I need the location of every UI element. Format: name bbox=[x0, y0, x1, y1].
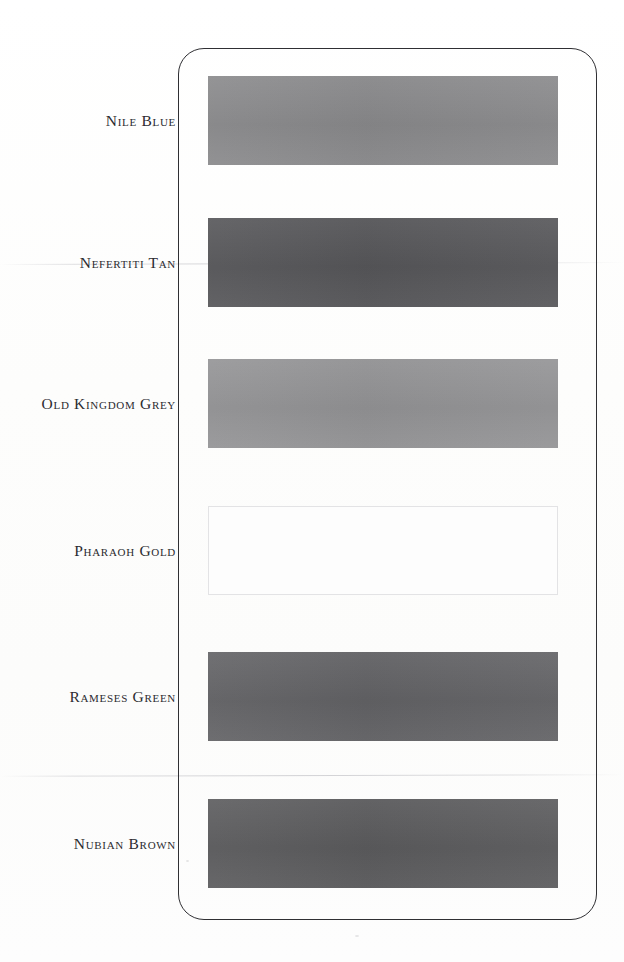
swatch-color-fill bbox=[208, 506, 558, 595]
swatch-patch-nefertiti-tan bbox=[208, 218, 558, 307]
swatch-row: Nefertiti Tan bbox=[0, 218, 624, 307]
swatch-label: Pharaoh Gold bbox=[0, 506, 176, 595]
swatch-row: Old Kingdom Grey bbox=[0, 359, 624, 448]
swatch-patch-nile-blue bbox=[208, 76, 558, 165]
swatch-color-fill bbox=[208, 359, 558, 448]
swatch-patch-nubian-brown bbox=[208, 799, 558, 888]
swatch-color-fill bbox=[208, 799, 558, 888]
swatch-row: Rameses Green bbox=[0, 652, 624, 741]
swatch-list: Nile Blue Nefertiti Tan Old Kingdom Grey… bbox=[0, 0, 624, 962]
swatch-color-fill bbox=[208, 218, 558, 307]
swatch-row: Nile Blue bbox=[0, 76, 624, 165]
swatch-patch-rameses-green bbox=[208, 652, 558, 741]
swatch-color-fill bbox=[208, 76, 558, 165]
swatch-label: Old Kingdom Grey bbox=[0, 359, 176, 448]
swatch-label: Nile Blue bbox=[0, 76, 176, 165]
page-canvas: Nile Blue Nefertiti Tan Old Kingdom Grey… bbox=[0, 0, 624, 962]
swatch-label: Nefertiti Tan bbox=[0, 218, 176, 307]
swatch-patch-old-kingdom-grey bbox=[208, 359, 558, 448]
swatch-patch-pharaoh-gold bbox=[208, 506, 558, 595]
swatch-label: Nubian Brown bbox=[0, 799, 176, 888]
swatch-color-fill bbox=[208, 652, 558, 741]
swatch-row: Pharaoh Gold bbox=[0, 506, 624, 595]
swatch-row: Nubian Brown bbox=[0, 799, 624, 888]
swatch-label: Rameses Green bbox=[0, 652, 176, 741]
